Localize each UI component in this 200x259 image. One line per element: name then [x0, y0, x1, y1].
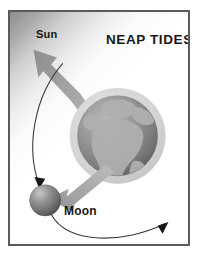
diagram-title: NEAP TIDES	[106, 33, 190, 47]
moon-sphere	[30, 185, 61, 216]
neap-tides-figure: Sun Moon NEAP TIDES	[0, 0, 200, 259]
diagram-frame: Sun Moon NEAP TIDES	[8, 10, 190, 246]
sun-label: Sun	[36, 29, 57, 40]
moon-label: Moon	[64, 205, 97, 217]
